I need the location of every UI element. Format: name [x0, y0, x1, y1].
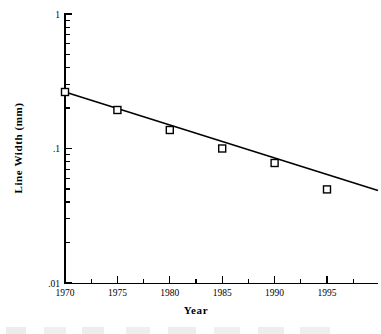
page-bottom-text-smudge — [0, 327, 381, 334]
x-tick-label-1970: 1970 — [56, 288, 75, 298]
x-tick-label-1975: 1975 — [108, 288, 127, 298]
data-point-1995 — [324, 186, 331, 193]
x-tick-label-1990: 1990 — [265, 288, 284, 298]
line-chart-canvas: 1 .1 .01 1970 1975 1980 1985 1990 1995 Y… — [0, 0, 381, 334]
y-axis-title: Line Width (mm) — [12, 102, 25, 193]
x-axis-title: Year — [184, 304, 208, 316]
data-point-1985 — [219, 145, 226, 152]
trend-line — [65, 92, 378, 191]
data-point-1975 — [114, 107, 121, 114]
data-point-1980 — [166, 127, 173, 134]
data-point-1970 — [62, 89, 69, 96]
x-tick-label-1980: 1980 — [160, 288, 179, 298]
x-tick-label-1995: 1995 — [318, 288, 337, 298]
chart-figure: 1 .1 .01 1970 1975 1980 1985 1990 1995 Y… — [0, 0, 381, 334]
y-tick-label-1: 1 — [55, 10, 60, 20]
y-axis-tick-labels: 1 .1 .01 — [48, 10, 60, 289]
y-tick-label-0-1: .1 — [53, 144, 60, 154]
x-axis-tick-labels: 1970 1975 1980 1985 1990 1995 — [56, 288, 337, 298]
data-point-1990 — [271, 160, 278, 167]
y-tick-label-0-01: .01 — [48, 279, 60, 289]
x-tick-label-1985: 1985 — [213, 288, 232, 298]
